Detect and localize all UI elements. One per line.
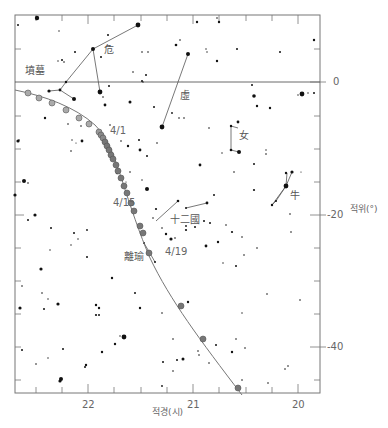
constellation-label-fenmu: 墳墓 (25, 66, 45, 76)
date-label-4-19: 4/19 (165, 247, 187, 257)
date-label-4-15: 4/15 (113, 198, 135, 208)
comet-markers (25, 90, 241, 391)
y-tick-neg40: -40 (327, 342, 343, 352)
constellation-lines (49, 25, 292, 262)
constellation-label-shierguo: 十二國 (170, 215, 200, 225)
date-label-4-1: 4/1 (110, 126, 126, 136)
plot-frame (15, 15, 320, 393)
y-axis-title: 적위(°) (350, 205, 378, 214)
constellation-label-wei: 危 (104, 45, 114, 55)
x-tick-20: 20 (292, 400, 305, 410)
constellation-label-liyu: 離瑜 (124, 252, 144, 262)
constellation-label-xu: 虛 (180, 91, 190, 101)
y-tick-0: 0 (333, 77, 339, 87)
y-tick-neg20: -20 (327, 210, 343, 220)
x-axis-title: 적경(시) (152, 408, 183, 417)
comet-path-line (15, 90, 242, 395)
constellation-label-nu: 女 (239, 131, 249, 141)
x-axis-ticks (36, 15, 298, 393)
x-tick-22: 22 (82, 400, 95, 410)
x-tick-21: 21 (187, 400, 200, 410)
constellation-label-niu: 牛 (290, 191, 300, 201)
stars (13, 16, 315, 387)
